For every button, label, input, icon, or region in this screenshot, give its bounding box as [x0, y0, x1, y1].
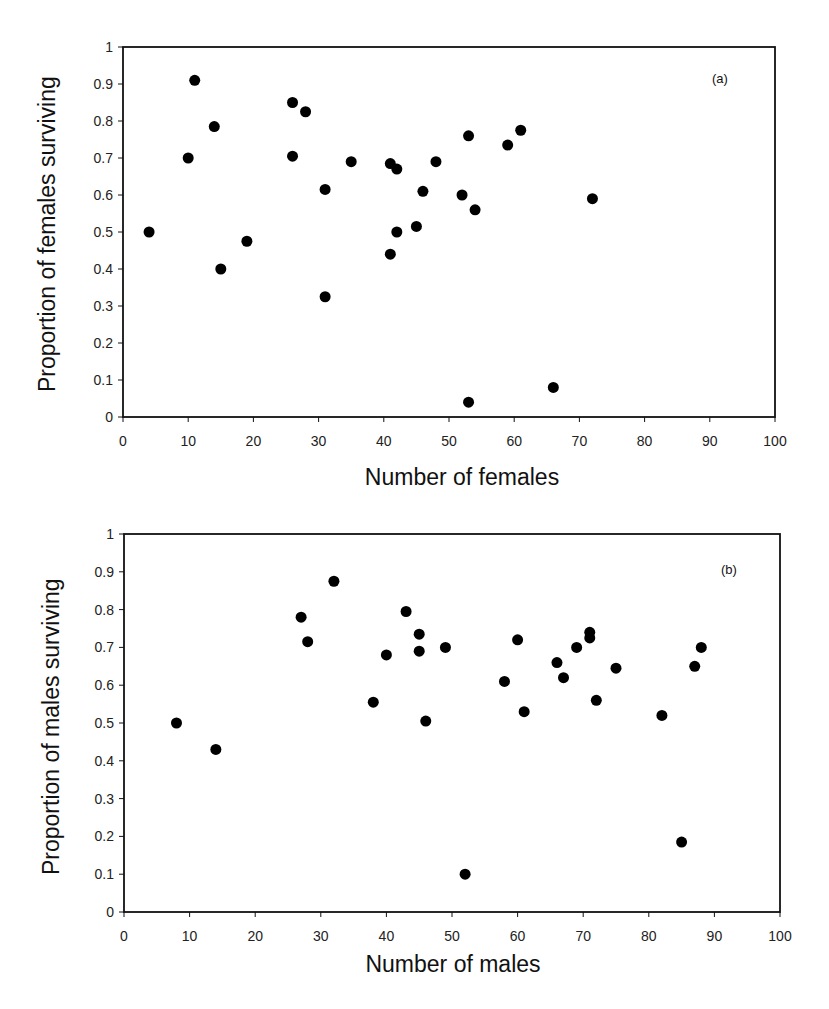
data-point — [463, 130, 474, 141]
data-point — [499, 676, 510, 687]
data-point — [470, 204, 481, 215]
data-point — [391, 164, 402, 175]
data-point — [391, 227, 402, 238]
data-point — [676, 837, 687, 848]
data-point — [587, 193, 598, 204]
y-tick-label: 0 — [105, 409, 113, 425]
data-point — [696, 642, 707, 653]
data-point — [368, 697, 379, 708]
plot-frame — [124, 534, 780, 912]
data-point — [414, 646, 425, 657]
y-tick-label: 0.6 — [94, 187, 114, 203]
y-tick-label: 0.2 — [94, 335, 114, 351]
data-point — [551, 657, 562, 668]
y-tick-label: 0.4 — [95, 753, 115, 769]
data-point — [328, 576, 339, 587]
y-axis-label: Proportion of females surviving — [34, 76, 61, 392]
data-point — [463, 397, 474, 408]
data-point — [548, 382, 559, 393]
data-point — [302, 636, 313, 647]
data-point — [144, 227, 155, 238]
data-point — [584, 632, 595, 643]
y-tick-label: 0.5 — [94, 224, 114, 240]
data-point — [320, 184, 331, 195]
chart-panel-b: 00.10.20.30.40.50.60.70.80.9101020304050… — [0, 500, 829, 1009]
data-point — [320, 291, 331, 302]
y-tick-label: 1 — [106, 526, 114, 542]
data-point — [515, 125, 526, 136]
x-tick-label: 10 — [180, 433, 196, 449]
x-tick-label: 50 — [441, 433, 457, 449]
data-point — [171, 718, 182, 729]
data-point — [287, 151, 298, 162]
data-point — [414, 629, 425, 640]
x-tick-label: 70 — [572, 433, 588, 449]
x-tick-label: 40 — [379, 928, 395, 944]
x-tick-label: 60 — [506, 433, 522, 449]
chart-panel-a: 00.10.20.30.40.50.60.70.80.9101020304050… — [0, 0, 829, 500]
data-point — [411, 221, 422, 232]
data-point — [571, 642, 582, 653]
y-tick-label: 0.7 — [94, 150, 114, 166]
data-point — [346, 156, 357, 167]
x-tick-label: 70 — [575, 928, 591, 944]
y-axis-label: Proportion of males surviving — [38, 578, 65, 875]
y-tick-label: 0.8 — [95, 602, 115, 618]
data-point — [189, 75, 200, 86]
data-point — [611, 663, 622, 674]
data-point — [430, 156, 441, 167]
x-tick-label: 30 — [311, 433, 327, 449]
y-tick-label: 0.8 — [94, 113, 114, 129]
data-point — [656, 710, 667, 721]
scatter-plot-females: 00.10.20.30.40.50.60.70.80.9101020304050… — [0, 0, 829, 500]
x-tick-label: 0 — [120, 928, 128, 944]
y-tick-label: 0.1 — [95, 866, 115, 882]
data-point — [300, 106, 311, 117]
data-point — [209, 121, 220, 132]
data-point — [457, 190, 468, 201]
y-tick-label: 0.4 — [94, 261, 114, 277]
x-tick-label: 20 — [246, 433, 262, 449]
x-tick-label: 40 — [376, 433, 392, 449]
data-point — [519, 706, 530, 717]
x-axis-label: Number of males — [365, 951, 540, 978]
x-tick-label: 60 — [510, 928, 526, 944]
x-axis-label: Number of females — [365, 464, 559, 491]
y-tick-label: 0.3 — [94, 298, 114, 314]
data-point — [296, 612, 307, 623]
data-point — [558, 672, 569, 683]
data-point — [460, 869, 471, 880]
data-point — [287, 97, 298, 108]
scatter-plot-males: 00.10.20.30.40.50.60.70.80.9101020304050… — [0, 500, 829, 1009]
y-tick-label: 1 — [105, 39, 113, 55]
y-tick-label: 0.3 — [95, 791, 115, 807]
data-point — [381, 649, 392, 660]
plot-frame — [123, 47, 775, 417]
panel-label: (a) — [712, 71, 728, 86]
data-point — [417, 186, 428, 197]
data-point — [210, 744, 221, 755]
data-point — [241, 236, 252, 247]
x-tick-label: 0 — [119, 433, 127, 449]
data-point — [215, 264, 226, 275]
x-tick-label: 10 — [182, 928, 198, 944]
x-tick-label: 100 — [763, 433, 787, 449]
data-point — [502, 140, 513, 151]
y-tick-label: 0.1 — [94, 372, 114, 388]
y-tick-label: 0.2 — [95, 828, 115, 844]
y-tick-label: 0.7 — [95, 639, 115, 655]
x-tick-label: 80 — [637, 433, 653, 449]
x-tick-label: 20 — [247, 928, 263, 944]
x-tick-label: 80 — [641, 928, 657, 944]
y-tick-label: 0.9 — [94, 76, 114, 92]
data-point — [512, 634, 523, 645]
x-tick-label: 90 — [707, 928, 723, 944]
data-point — [183, 153, 194, 164]
y-tick-label: 0.5 — [95, 715, 115, 731]
panel-label: (b) — [721, 562, 737, 577]
x-tick-label: 90 — [702, 433, 718, 449]
x-tick-label: 100 — [768, 928, 792, 944]
data-point — [591, 695, 602, 706]
x-tick-label: 30 — [313, 928, 329, 944]
y-tick-label: 0 — [106, 904, 114, 920]
